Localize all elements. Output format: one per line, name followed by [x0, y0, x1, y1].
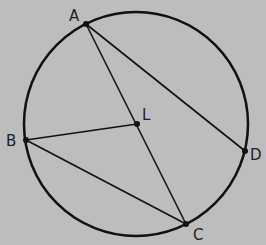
point-l — [134, 121, 140, 127]
label-b: B — [6, 132, 16, 150]
segment-bl — [26, 124, 137, 140]
point-a — [83, 21, 89, 27]
segment-bc — [26, 140, 186, 224]
label-a: A — [69, 7, 80, 25]
segment-ad — [86, 24, 245, 151]
geometry-figure: A B C D L — [0, 0, 266, 245]
label-l: L — [142, 106, 151, 124]
point-d — [242, 148, 248, 154]
point-c — [183, 221, 189, 227]
label-c: C — [193, 226, 203, 244]
label-d: D — [250, 146, 262, 164]
point-b — [23, 137, 29, 143]
diagram-canvas: A B C D L — [0, 0, 266, 245]
